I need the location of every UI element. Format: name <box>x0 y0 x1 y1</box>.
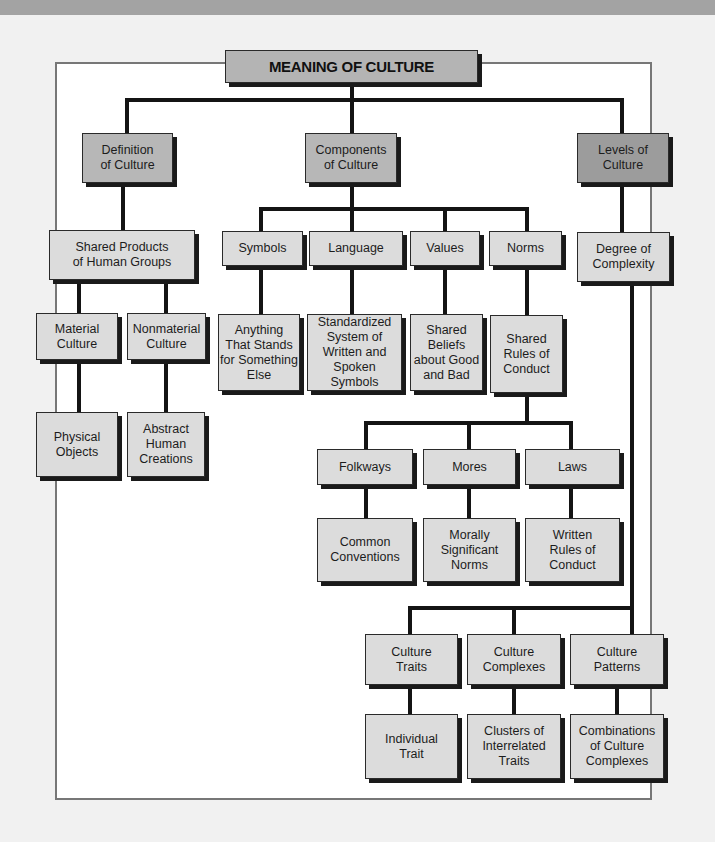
node-nonmaterial-culture: Nonmaterial Culture <box>127 313 206 360</box>
node-folkways: Folkways <box>317 449 413 485</box>
node-mores: Mores <box>423 449 516 485</box>
node-combinations-of-complexes: Combinations of Culture Complexes <box>570 714 664 779</box>
node-common-conventions: Common Conventions <box>317 518 413 582</box>
node-values-definition: Shared Beliefs about Good and Bad <box>410 314 483 391</box>
node-laws: Laws <box>525 449 620 485</box>
node-written-rules: Written Rules of Conduct <box>525 518 620 582</box>
node-clusters-of-traits: Clusters of Interrelated Traits <box>467 714 561 779</box>
root-title: MEANING OF CULTURE <box>225 50 478 83</box>
node-culture-patterns: Culture Patterns <box>570 634 664 685</box>
node-symbols-definition: Anything That Stands for Something Else <box>218 314 300 391</box>
node-components-of-culture: Components of Culture <box>305 133 397 183</box>
node-symbols: Symbols <box>222 231 303 266</box>
node-definition-of-culture: Definition of Culture <box>82 133 173 183</box>
node-language-definition: Standardized System of Written and Spoke… <box>307 314 402 391</box>
node-abstract-human-creations: Abstract Human Creations <box>127 412 205 477</box>
node-morally-significant-norms: Morally Significant Norms <box>423 518 516 582</box>
node-culture-complexes: Culture Complexes <box>467 634 561 685</box>
node-material-culture: Material Culture <box>36 313 118 360</box>
node-language: Language <box>309 231 403 266</box>
node-values: Values <box>410 231 480 266</box>
node-shared-products: Shared Products of Human Groups <box>49 230 195 280</box>
node-norms-definition: Shared Rules of Conduct <box>490 315 563 393</box>
node-physical-objects: Physical Objects <box>36 412 118 477</box>
node-norms: Norms <box>489 231 562 266</box>
node-degree-of-complexity: Degree of Complexity <box>577 232 670 282</box>
node-culture-traits: Culture Traits <box>365 634 458 685</box>
top-banner <box>0 0 715 15</box>
node-individual-trait: Individual Trait <box>365 714 458 779</box>
node-levels-of-culture: Levels of Culture <box>577 133 669 183</box>
